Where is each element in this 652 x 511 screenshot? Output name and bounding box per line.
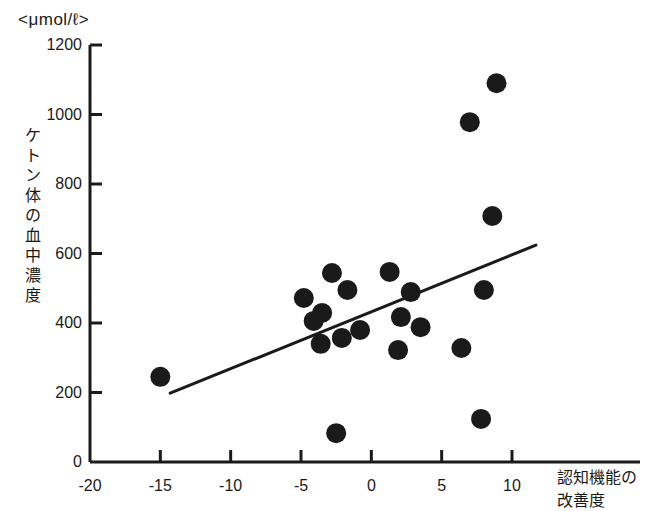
scatter-point bbox=[322, 263, 342, 283]
scatter-chart-figure: <μmol/ℓ> ケトン体の血中濃度 020040060080010001200… bbox=[0, 0, 652, 511]
scatter-point bbox=[380, 262, 400, 282]
x-axis-title-line-2: 改善度 bbox=[557, 489, 637, 511]
x-axis-title-line-1: 認知機能の bbox=[557, 466, 637, 489]
data-points bbox=[150, 73, 506, 443]
y-axis-tick-label: 400 bbox=[36, 315, 82, 331]
scatter-point bbox=[150, 367, 170, 387]
x-axis-tick-label: 0 bbox=[349, 478, 393, 494]
scatter-point bbox=[460, 112, 480, 132]
scatter-point bbox=[471, 409, 491, 429]
regression-line bbox=[170, 245, 536, 393]
scatter-point bbox=[474, 280, 494, 300]
scatter-point bbox=[487, 73, 507, 93]
scatter-point bbox=[451, 338, 471, 358]
scatter-point bbox=[326, 423, 346, 443]
x-axis-tick-label: -15 bbox=[138, 478, 182, 494]
axes bbox=[90, 45, 640, 462]
y-axis-tick-label: 1000 bbox=[36, 107, 82, 123]
y-axis-tick-label: 1200 bbox=[36, 37, 82, 53]
scatter-point bbox=[388, 340, 408, 360]
x-axis-tick-label: -5 bbox=[279, 478, 323, 494]
x-axis-tick-label: -20 bbox=[68, 478, 112, 494]
scatter-point bbox=[332, 328, 352, 348]
scatter-point bbox=[401, 282, 421, 302]
x-axis-tick-label: 5 bbox=[420, 478, 464, 494]
scatter-point bbox=[391, 307, 411, 327]
scatter-point bbox=[311, 334, 331, 354]
scatter-point bbox=[337, 280, 357, 300]
trendline bbox=[170, 245, 536, 393]
scatter-point bbox=[350, 320, 370, 340]
x-axis-tick-label: 10 bbox=[490, 478, 534, 494]
scatter-point bbox=[482, 206, 502, 226]
y-axis-tick-label: 0 bbox=[36, 454, 82, 470]
plot-area bbox=[0, 0, 652, 511]
scatter-point bbox=[294, 288, 314, 308]
scatter-point bbox=[312, 303, 332, 323]
scatter-point bbox=[411, 317, 431, 337]
x-axis-ticks bbox=[160, 450, 512, 462]
y-axis-tick-label: 800 bbox=[36, 176, 82, 192]
y-axis-tick-label: 200 bbox=[36, 385, 82, 401]
x-axis-tick-label: -10 bbox=[209, 478, 253, 494]
y-axis-ticks bbox=[90, 45, 102, 393]
x-axis-title: 認知機能の 改善度 bbox=[557, 466, 637, 511]
y-axis-tick-label: 600 bbox=[36, 246, 82, 262]
